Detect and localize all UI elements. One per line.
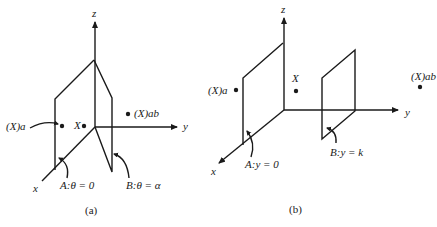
point-xab-a	[126, 112, 130, 116]
pointer-plane-b-b	[327, 128, 336, 143]
z-label-b: z	[280, 3, 286, 15]
pointer-plane-a-a	[59, 158, 68, 178]
label-xab-a: (X)ab	[134, 107, 160, 120]
caption-a: (a)	[85, 204, 98, 217]
y-label-b: y	[404, 106, 410, 118]
plane-b-b	[322, 50, 355, 139]
label-plane-b-b: B:y = k	[330, 146, 364, 158]
figure-canvas: z y x (X)a X (X)ab A:θ = 0 B:θ = α (a) z…	[0, 0, 437, 227]
label-plane-b-a: B:θ = α	[126, 179, 161, 191]
plane-b-a	[94, 60, 112, 172]
point-x-a	[82, 124, 86, 128]
label-xab-b: (X)ab	[411, 70, 437, 83]
y-label-a: y	[182, 120, 188, 132]
x-axis-a	[42, 127, 95, 181]
plane-a-a	[55, 60, 94, 170]
pointer-xa-a	[30, 123, 58, 128]
label-x-b: X	[291, 72, 300, 84]
point-xa-a	[60, 124, 64, 128]
x-label-a: x	[32, 182, 38, 194]
caption-b: (b)	[289, 203, 302, 216]
x-label-b: x	[210, 165, 216, 177]
panel-b: z y x (X)a X (X)ab A:y = 0 B:y = k (b)	[208, 3, 437, 216]
pointer-plane-b-a	[114, 154, 129, 178]
label-xa-b: (X)a	[208, 84, 228, 97]
point-xa-b	[234, 88, 238, 92]
label-xa-a: (X)a	[6, 120, 26, 133]
plane-a-b	[243, 43, 283, 145]
point-xab-b	[418, 85, 422, 89]
pointer-plane-a-b	[247, 131, 253, 157]
z-label-a: z	[91, 7, 97, 19]
label-plane-a-b: A:y = 0	[244, 158, 279, 170]
point-x-b	[294, 89, 298, 93]
panel-a: z y x (X)a X (X)ab A:θ = 0 B:θ = α (a)	[6, 7, 188, 217]
label-plane-a-a: A:θ = 0	[59, 179, 95, 191]
label-x-a: X	[73, 119, 82, 131]
